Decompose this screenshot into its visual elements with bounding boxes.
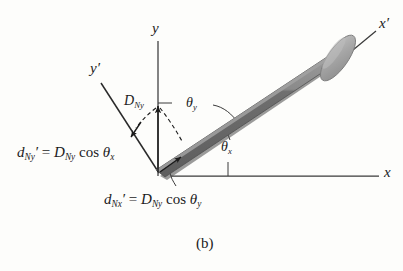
bar-body [156, 55, 338, 177]
projection-to-x-prime-dashed [160, 108, 183, 143]
d-Ny-prime-component-arrow [131, 122, 141, 137]
mechanics-diagram [0, 0, 403, 271]
x-prime-axis-label: x′ [379, 16, 389, 31]
y-axis-label: y [152, 21, 159, 36]
x-axis-label: x [384, 165, 391, 180]
y-prime-axis-label: y′ [90, 61, 100, 76]
theta-y-label: θy [186, 96, 197, 110]
d-Ny-prime-equation: dNy′ = DNy cos θx [17, 145, 114, 160]
figure-caption: (b) [196, 236, 214, 251]
end-disk [314, 30, 361, 86]
theta-x-label: θx [221, 140, 232, 154]
bar-highlight-edge [156, 55, 333, 172]
d-Nx-prime-equation: dNx′ = DNy cos θy [104, 192, 201, 207]
D-Ny-label: DNy [124, 94, 144, 108]
